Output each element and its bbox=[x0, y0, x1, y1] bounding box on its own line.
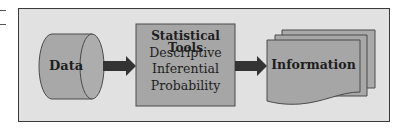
tool-probability: Probability bbox=[136, 80, 235, 93]
arrow-right-icon bbox=[103, 56, 136, 76]
tool-descriptive: Descriptive bbox=[136, 47, 235, 60]
tool-inferential: Inferential bbox=[136, 63, 235, 76]
arrow-right-icon bbox=[235, 56, 267, 76]
information-label: Information bbox=[267, 59, 360, 72]
data-label: Data bbox=[40, 59, 92, 72]
